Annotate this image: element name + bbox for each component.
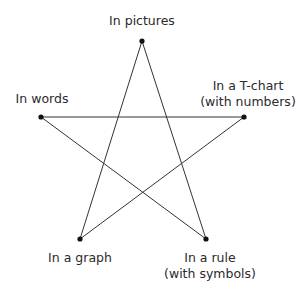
label-in-a-rule: In a rule (with symbols) [160,250,260,282]
node-dot-tchart [241,114,246,119]
node-dot-rule [203,236,208,241]
label-in-a-graph: In a graph [30,250,130,266]
label-in-a-t-chart: In a T-chart (with numbers) [198,78,298,110]
label-line: In a graph [30,250,130,266]
label-line: In words [2,91,82,107]
label-line: (with numbers) [198,94,298,110]
node-dot-words [38,114,43,119]
label-line: In a T-chart [198,78,298,94]
edge-pictures-rule [142,41,206,239]
label-line: (with symbols) [160,266,260,282]
edge-words-rule [41,117,206,239]
pentagram-diagram [0,0,303,290]
label-in-pictures: In pictures [92,13,192,29]
node-dot-graph [77,236,82,241]
edge-pictures-graph [80,41,142,239]
edge-tchart-graph [80,117,244,239]
node-dot-pictures [139,38,144,43]
label-in-words: In words [2,91,82,107]
label-line: In pictures [92,13,192,29]
label-line: In a rule [160,250,260,266]
